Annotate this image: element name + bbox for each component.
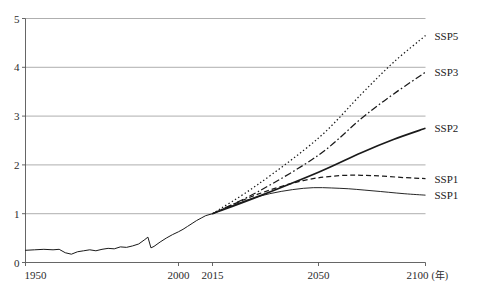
series-labels-group: SSP5SSP3SSP2SSP1SSP1 — [435, 30, 459, 202]
chart-container: 012345 19502000201520502100 SSP5SSP3SSP2… — [0, 0, 483, 293]
x-axis-unit-label: (年) — [432, 269, 449, 282]
y-tick-label-3: 3 — [14, 110, 20, 122]
y-tick-label-2: 2 — [14, 159, 20, 171]
line-chart-svg: 012345 19502000201520502100 SSP5SSP3SSP2… — [0, 0, 483, 293]
tickmarks-group — [22, 19, 426, 267]
series-label-SSP3: SSP3 — [435, 66, 459, 78]
y-tick-label-4: 4 — [14, 61, 20, 73]
gridlines-group — [26, 19, 426, 214]
series-line-SSP5 — [213, 36, 426, 214]
series-line-historical — [26, 214, 213, 255]
series-line-SSP1-dashed — [213, 175, 426, 214]
series-label-SSP5: SSP5 — [435, 30, 459, 42]
series-line-SSP1-solid — [213, 188, 426, 214]
y-tick-labels-group: 012345 — [14, 13, 20, 269]
y-tick-label-0: 0 — [14, 257, 20, 269]
x-tick-label-2000: 2000 — [168, 269, 191, 281]
series-paths-group — [26, 36, 426, 255]
axes-group — [26, 19, 426, 263]
y-tick-label-1: 1 — [14, 208, 20, 220]
x-axis-unit-text: (年) — [432, 269, 449, 282]
series-label-SSP2: SSP2 — [435, 122, 459, 134]
series-label-SSP1-dashed: SSP1 — [435, 173, 459, 185]
series-label-SSP1-solid: SSP1 — [435, 189, 459, 201]
y-tick-label-5: 5 — [14, 13, 20, 25]
x-tick-label-2050: 2050 — [308, 269, 331, 281]
x-tick-label-2015: 2015 — [202, 269, 225, 281]
x-tick-label-1950: 1950 — [25, 269, 48, 281]
x-tick-label-2100: 2100 — [407, 269, 430, 281]
x-tick-labels-group: 19502000201520502100 — [25, 269, 430, 281]
